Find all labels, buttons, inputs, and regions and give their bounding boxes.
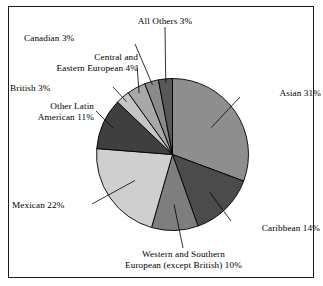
slice-label-mexican: Mexican 22% [12, 200, 90, 211]
leader-line-all-others [165, 27, 166, 83]
slice-label-british-line1: British 3% [10, 83, 110, 94]
slice-label-canadian: Canadian 3% [24, 33, 134, 44]
slice-label-caribbean-line1: Caribbean 14% [232, 223, 320, 234]
slice-label-caribbean: Caribbean 14% [232, 223, 320, 234]
slice-label-western-southern-european-line1: Western and Southern [96, 249, 271, 260]
pie-slice-group [97, 78, 249, 230]
slice-label-all-others-line1: All Others 3% [105, 16, 225, 27]
slice-label-western-southern-european: Western and Southern European (except Br… [96, 249, 271, 270]
slice-label-mexican-line1: Mexican 22% [12, 200, 90, 211]
slice-label-central-eastern-european: Central and Eastern European 4% [18, 52, 138, 73]
slice-label-other-latin-american: Other Latin American 11% [8, 101, 94, 122]
slice-label-asian: Asian 31% [243, 88, 321, 99]
slice-label-other-latin-american-line2: American 11% [8, 112, 94, 123]
slice-label-western-southern-european-line2: European (except British) 10% [96, 260, 271, 271]
pie-chart-figure: All Others 3% Canadian 3% Central and Ea… [0, 0, 323, 286]
slice-label-central-eastern-european-line2: Eastern European 4% [18, 63, 138, 74]
slice-label-all-others: All Others 3% [105, 16, 225, 27]
slice-label-asian-line1: Asian 31% [243, 88, 321, 99]
slice-label-central-eastern-european-line1: Central and [18, 52, 138, 63]
slice-label-other-latin-american-line1: Other Latin [8, 101, 94, 112]
slice-label-canadian-line1: Canadian 3% [24, 33, 134, 44]
slice-label-british: British 3% [10, 83, 110, 94]
